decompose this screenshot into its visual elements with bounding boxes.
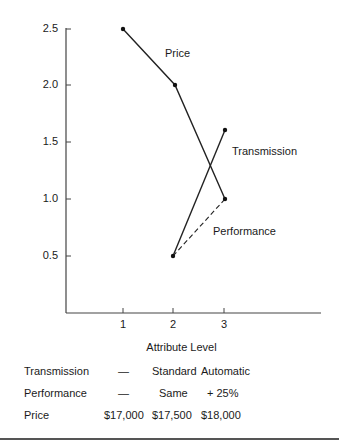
data-point (173, 83, 177, 87)
table-row-performance: Performance — Same + 25% (0, 387, 339, 403)
data-point (171, 254, 175, 258)
transmission-series-label: Transmission (232, 145, 297, 157)
level-3-value: $18,000 (201, 409, 241, 421)
level-2-value: $17,500 (152, 409, 192, 421)
x-tick-label: 1 (113, 318, 133, 330)
level-3-value: + 25% (207, 387, 239, 399)
level-3-value: Automatic (201, 365, 250, 377)
performance-series-label: Performance (213, 225, 276, 237)
y-tick-label: 2.5 (28, 22, 58, 34)
data-point (223, 197, 227, 201)
row-label: Performance (24, 387, 87, 399)
x-tick-label: 3 (214, 318, 234, 330)
table-row-price: Price $17,000 $17,500 $18,000 (0, 409, 339, 425)
transmission-series-line (173, 130, 225, 256)
bottom-rule (0, 438, 339, 440)
price-series-label: Price (165, 47, 190, 59)
line-chart: 2.5 2.0 1.5 1.0 0.5 1 2 3 Price Transmis… (0, 0, 339, 340)
row-label: Transmission (24, 365, 89, 377)
y-tick-label: 1.5 (28, 135, 58, 147)
y-tick-label: 2.0 (28, 78, 58, 90)
y-tick-label: 1.0 (28, 192, 58, 204)
x-tick-label: 2 (163, 318, 183, 330)
table-row-transmission: Transmission — Standard Automatic (0, 365, 339, 381)
level-2-value: Same (159, 387, 188, 399)
level-1-value: — (118, 387, 129, 399)
data-point (121, 27, 125, 31)
level-1-value: — (118, 365, 129, 377)
level-2-value: Standard (152, 365, 197, 377)
row-label: Price (24, 409, 49, 421)
data-point (223, 128, 227, 132)
level-1-value: $17,000 (104, 409, 144, 421)
y-tick-label: 0.5 (28, 249, 58, 261)
x-axis-label: Attribute Level (0, 341, 339, 353)
